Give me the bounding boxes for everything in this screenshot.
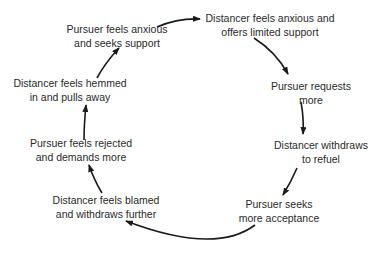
arrow-n6-to-n7 [89,165,102,193]
node-line-1: Distancer withdraws [268,138,374,152]
node-distancer-anxious: Distancer feels anxious and offers limit… [196,11,344,39]
node-line-1: Pursuer requests [268,79,354,93]
node-line-1: Distancer feels hemmed [10,76,130,90]
node-line-2: offers limited support [196,25,344,39]
node-line-2: and withdraws further [46,207,166,221]
arrow-n7-to-n8 [84,105,86,140]
pursuer-distancer-cycle-diagram: Pursuer feels anxious and seeks support … [0,0,376,258]
node-line-2: more acceptance [234,211,324,225]
node-distancer-hemmed-in: Distancer feels hemmed in and pulls away [10,76,130,104]
node-line-2: to refuel [268,152,374,166]
node-line-1: Pursuer feels anxious [62,22,172,36]
node-distancer-blamed: Distancer feels blamed and withdraws fur… [46,193,166,221]
node-line-2: more [268,93,354,107]
node-pursuer-anxious: Pursuer feels anxious and seeks support [62,22,172,50]
node-line-2: and demands more [25,150,137,164]
node-line-1: Pursuer seeks [234,197,324,211]
node-line-1: Distancer feels anxious and [196,11,344,25]
node-line-2: in and pulls away [10,90,130,104]
arrow-n8-to-n1 [97,48,119,78]
node-line-1: Pursuer feels rejected [25,136,137,150]
node-line-2: and seeks support [62,36,172,50]
node-pursuer-seeks-acceptance: Pursuer seeks more acceptance [234,197,324,225]
arrow-n4-to-n5 [283,168,297,195]
node-distancer-withdraws: Distancer withdraws to refuel [268,138,374,166]
node-line-1: Distancer feels blamed [46,193,166,207]
node-pursuer-rejected: Pursuer feels rejected and demands more [25,136,137,164]
node-pursuer-requests: Pursuer requests more [268,79,354,107]
arrow-n2-to-n3 [254,38,288,74]
